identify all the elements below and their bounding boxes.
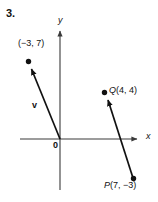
vector-diagram-figure: 3. y x 0 (−3, 7) v Q(4, 4) P(7, −3): [0, 0, 158, 202]
y-axis-label: y: [58, 16, 63, 25]
x-axis-label: x: [146, 132, 151, 141]
point-label-minus3-7: (−3, 7): [18, 39, 44, 48]
coordinate-plane-svg: [0, 0, 158, 202]
point-label-p: P(7, −3): [104, 181, 136, 190]
problem-number: 3.: [6, 8, 15, 19]
point-label-q: Q(4, 4): [109, 86, 137, 95]
vector-v-name-label: v: [32, 101, 37, 110]
point-marker-q: [102, 90, 107, 95]
origin-label: 0: [53, 141, 58, 150]
point-marker-minus3-7: [26, 59, 31, 64]
